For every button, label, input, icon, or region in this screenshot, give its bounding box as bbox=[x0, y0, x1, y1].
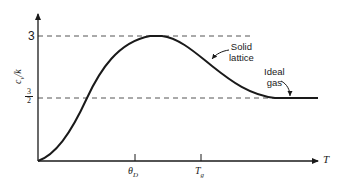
y-axis-label: cv/k bbox=[12, 69, 26, 84]
x-tick-label-theta-d: θD bbox=[128, 166, 138, 179]
y-tick-label-3-halves: 3 2 bbox=[25, 88, 33, 105]
annotation-ideal-gas: Ideal gas bbox=[264, 66, 285, 88]
annotation-solid-line2: lattice bbox=[229, 52, 254, 63]
annotation-solid-line1: Solid bbox=[229, 41, 254, 52]
annotation-solid-lattice: Solid lattice bbox=[229, 41, 254, 63]
y-axis-label-sub: v bbox=[18, 76, 26, 79]
x-tick-label-tg: Tg bbox=[195, 166, 204, 179]
y-tick-frac-denominator: 2 bbox=[25, 97, 33, 105]
chart-canvas bbox=[0, 0, 338, 189]
y-axis-label-rest: /k bbox=[12, 69, 23, 76]
solid-lattice-leader bbox=[212, 50, 229, 59]
x-axis-label: T bbox=[323, 154, 329, 165]
annotation-ideal-line2: gas bbox=[264, 77, 285, 88]
y-axis-label-main: c bbox=[12, 80, 23, 84]
x-tick-tg-sub: g bbox=[201, 171, 205, 179]
y-tick-label-3: 3 bbox=[28, 30, 35, 42]
annotation-ideal-line1: Ideal bbox=[264, 66, 285, 77]
x-tick-theta-sub: D bbox=[133, 171, 138, 179]
